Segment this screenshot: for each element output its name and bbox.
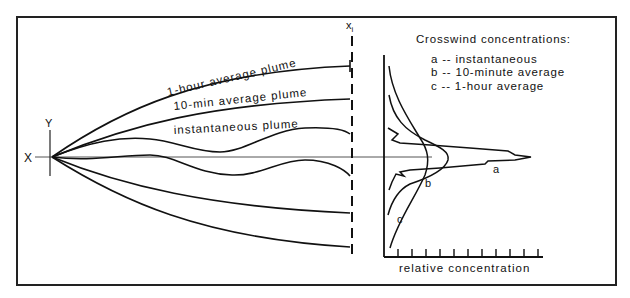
x-axis-label: X (24, 151, 32, 165)
profile-label-c: c (397, 213, 403, 225)
profile-label-a: a (493, 163, 500, 175)
profile-curve-a (388, 128, 531, 190)
ten-min-plume-lower (52, 157, 350, 213)
legend-title: Crosswind concentrations: (416, 33, 571, 45)
y-axis-label: Y (45, 117, 53, 129)
xi-label: xi (346, 19, 354, 34)
plume-diagram: X Y xi 1-hour average plume 10-min avera… (0, 0, 630, 298)
profile-curve-b (388, 95, 448, 215)
legend-list: a -- instantaneous b -- 10-minute averag… (431, 53, 565, 92)
legend-item-a: a -- instantaneous (431, 53, 537, 65)
profile-label-b: b (425, 177, 431, 189)
legend-item-b: b -- 10-minute average (431, 66, 565, 78)
profile-axis-label: relative concentration (399, 262, 530, 274)
legend-item-c: c -- 1-hour average (431, 80, 544, 92)
profile-ticks (398, 249, 538, 257)
